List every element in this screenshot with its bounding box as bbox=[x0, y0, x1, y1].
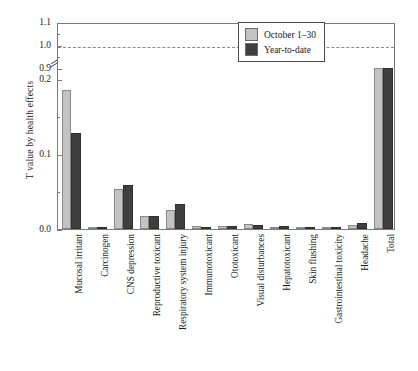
bar bbox=[71, 133, 81, 229]
bar bbox=[62, 90, 72, 229]
x-tick-label: Reproductive toxicant bbox=[152, 234, 162, 316]
bar bbox=[383, 68, 393, 229]
y-tick bbox=[57, 230, 62, 231]
y-tick bbox=[57, 23, 62, 24]
x-tick-label: CNS depression bbox=[126, 234, 136, 294]
legend-swatch-october bbox=[245, 28, 258, 41]
y-tick-label: 1.0 bbox=[17, 41, 51, 51]
bar bbox=[218, 226, 228, 229]
bar bbox=[140, 216, 150, 230]
bar bbox=[244, 224, 254, 229]
reference-line-1.0 bbox=[58, 47, 394, 48]
bar bbox=[253, 225, 263, 229]
legend-item-0: October 1–30 bbox=[245, 27, 316, 42]
bar bbox=[192, 226, 202, 229]
x-tick-label: Ototoxicant bbox=[230, 234, 240, 278]
bar bbox=[175, 204, 185, 230]
y-tick-label: 0.0 bbox=[17, 225, 51, 235]
legend: October 1–30 Year-to-date bbox=[238, 22, 325, 62]
chart-figure: T value by health effects Mucosal irrita… bbox=[0, 0, 418, 371]
y-tick-minor bbox=[57, 34, 60, 35]
plot-area bbox=[57, 23, 395, 230]
bar bbox=[166, 210, 176, 229]
y-tick-minor bbox=[57, 57, 60, 58]
x-tick-label: Gastrointestinal toxicity bbox=[334, 234, 344, 324]
bar bbox=[348, 225, 358, 230]
bar bbox=[270, 227, 280, 229]
bar bbox=[114, 189, 124, 229]
x-tick-label: Skin flushing bbox=[308, 234, 318, 284]
bar bbox=[149, 216, 159, 229]
x-tick-label: Visual disturbances bbox=[256, 234, 266, 307]
y-tick-label: 0.1 bbox=[17, 150, 51, 160]
x-tick-label: Mucosal irritant bbox=[74, 234, 84, 294]
bar bbox=[331, 227, 341, 229]
bar bbox=[322, 227, 332, 229]
bar bbox=[201, 227, 211, 229]
y-tick-label: 0.2 bbox=[17, 75, 51, 85]
legend-label-october: October 1–30 bbox=[264, 30, 316, 40]
legend-item-1: Year-to-date bbox=[245, 42, 316, 57]
y-tick-minor bbox=[57, 117, 60, 118]
y-tick-minor bbox=[57, 192, 60, 193]
y-tick bbox=[57, 80, 62, 81]
legend-label-year-to-date: Year-to-date bbox=[264, 45, 311, 55]
x-tick-label: Hepatotoxicant bbox=[282, 234, 292, 291]
y-tick bbox=[57, 46, 62, 47]
bar bbox=[374, 68, 384, 229]
bar bbox=[279, 226, 289, 229]
y-tick-label: 0.9 bbox=[17, 64, 51, 74]
y-tick bbox=[57, 155, 62, 156]
y-tick-label: 1.1 bbox=[17, 18, 51, 28]
bar bbox=[357, 223, 367, 229]
x-tick-label: Total bbox=[386, 234, 396, 253]
bar bbox=[123, 185, 133, 229]
y-tick bbox=[57, 69, 62, 70]
bar bbox=[227, 226, 237, 229]
bar bbox=[305, 227, 315, 229]
x-tick-label: Respiratory system injury bbox=[178, 234, 188, 330]
x-tick-label: Headache bbox=[360, 234, 370, 271]
bar bbox=[88, 227, 98, 229]
x-tick-label: Immunotoxicant bbox=[204, 234, 214, 295]
x-tick-label: Carcinogen bbox=[100, 234, 110, 277]
legend-swatch-year-to-date bbox=[245, 43, 258, 56]
bar bbox=[296, 227, 306, 229]
bar bbox=[97, 227, 107, 229]
